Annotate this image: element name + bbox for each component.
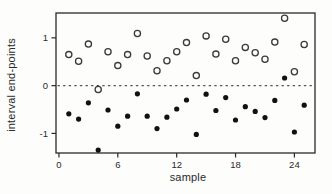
- lower-endpoint-marker: [66, 111, 71, 116]
- x-axis-tick-label: 6: [115, 159, 120, 170]
- lower-endpoint-marker: [145, 114, 150, 119]
- lower-endpoint-marker: [194, 132, 199, 137]
- x-axis-tick-label: 12: [171, 159, 182, 170]
- lower-endpoint-marker: [135, 91, 140, 96]
- upper-endpoint-marker: [213, 51, 219, 57]
- upper-endpoint-marker: [115, 63, 121, 69]
- upper-endpoint-marker: [66, 52, 72, 58]
- upper-endpoint-marker: [242, 44, 248, 50]
- plot-svg: 06121824-101: [0, 0, 332, 194]
- y-axis-tick-label: 0: [43, 80, 48, 91]
- lower-endpoint-marker: [115, 124, 120, 129]
- upper-endpoint-marker: [232, 58, 238, 64]
- y-axis-label: interval end-points: [5, 38, 17, 132]
- upper-endpoint-marker: [85, 41, 91, 47]
- upper-endpoint-marker: [105, 49, 111, 55]
- lower-endpoint-marker: [223, 95, 228, 100]
- upper-endpoint-marker: [164, 58, 170, 64]
- upper-endpoint-marker: [144, 53, 150, 59]
- upper-endpoint-marker: [272, 39, 278, 45]
- lower-endpoint-marker: [272, 98, 277, 103]
- upper-endpoint-marker: [203, 33, 209, 39]
- lower-endpoint-marker: [76, 117, 81, 122]
- lower-endpoint-marker: [164, 115, 169, 120]
- x-axis-tick-label: 18: [230, 159, 241, 170]
- lower-endpoint-marker: [253, 109, 258, 114]
- lower-endpoint-marker: [174, 106, 179, 111]
- lower-endpoint-marker: [292, 129, 297, 134]
- lower-endpoint-marker: [243, 104, 248, 109]
- lower-endpoint-marker: [213, 108, 218, 113]
- lower-endpoint-marker: [262, 115, 267, 120]
- x-axis-tick-label: 24: [289, 159, 300, 170]
- upper-endpoint-marker: [154, 68, 160, 74]
- upper-endpoint-marker: [282, 15, 288, 21]
- upper-endpoint-marker: [262, 56, 268, 62]
- upper-endpoint-marker: [125, 52, 131, 58]
- upper-endpoint-marker: [291, 69, 297, 75]
- upper-endpoint-marker: [301, 41, 307, 47]
- upper-endpoint-marker: [223, 36, 229, 42]
- lower-endpoint-marker: [154, 126, 159, 131]
- y-axis-tick-label: -1: [40, 128, 48, 139]
- lower-endpoint-marker: [105, 107, 110, 112]
- x-axis-label: sample: [170, 171, 207, 183]
- lower-endpoint-marker: [125, 114, 130, 119]
- lower-endpoint-marker: [302, 103, 307, 108]
- lower-endpoint-marker: [86, 100, 91, 105]
- scatter-plot-figure: 06121824-101 interval end-points sample: [0, 0, 332, 194]
- upper-endpoint-marker: [193, 73, 199, 79]
- upper-endpoint-marker: [95, 86, 101, 92]
- upper-endpoint-marker: [183, 40, 189, 46]
- lower-endpoint-marker: [233, 117, 238, 122]
- upper-endpoint-marker: [134, 30, 140, 36]
- lower-endpoint-marker: [184, 97, 189, 102]
- plot-border: [56, 13, 315, 153]
- upper-endpoint-marker: [76, 58, 82, 64]
- y-axis-tick-label: 1: [43, 32, 48, 43]
- x-axis-tick-label: 0: [56, 159, 61, 170]
- lower-endpoint-marker: [204, 92, 209, 97]
- upper-endpoint-marker: [252, 50, 258, 56]
- upper-endpoint-marker: [174, 49, 180, 55]
- lower-endpoint-marker: [282, 75, 287, 80]
- lower-endpoint-marker: [96, 148, 101, 153]
